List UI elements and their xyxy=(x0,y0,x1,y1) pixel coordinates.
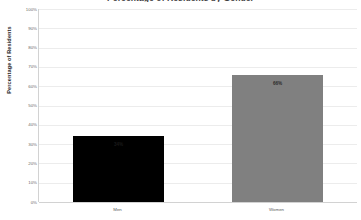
y-tick-label: 20% xyxy=(13,161,37,166)
gridline xyxy=(39,202,357,203)
gridline xyxy=(39,9,357,10)
bar-value-label: 34% xyxy=(73,142,164,148)
y-tick-label: 50% xyxy=(13,103,37,108)
y-tick-label: 60% xyxy=(13,84,37,89)
chart-title: Percentage of Residents by Gender xyxy=(0,0,361,2)
y-tick-label: 80% xyxy=(13,45,37,50)
plot-area: 34%66% xyxy=(38,9,356,202)
x-tick-label-women: Women xyxy=(197,207,356,213)
y-tick-label: 100% xyxy=(13,7,37,12)
bar-chart: Percentage of Residents by Gender Percen… xyxy=(0,0,361,220)
y-tick-label: 70% xyxy=(13,64,37,69)
y-tick-label: 0% xyxy=(13,200,37,205)
gridline xyxy=(39,67,357,68)
gridline xyxy=(39,48,357,49)
y-axis-title: Percentage of Residents xyxy=(6,10,12,110)
x-tick-label-men: Men xyxy=(38,207,197,213)
gridline xyxy=(39,28,357,29)
bar-men[interactable]: 34% xyxy=(73,136,164,202)
y-tick-label: 30% xyxy=(13,142,37,147)
bar-women[interactable]: 66% xyxy=(232,75,323,202)
y-tick-label: 40% xyxy=(13,122,37,127)
bar-value-label: 66% xyxy=(232,81,323,87)
y-tick-label: 90% xyxy=(13,26,37,31)
y-tick-label: 10% xyxy=(13,180,37,185)
